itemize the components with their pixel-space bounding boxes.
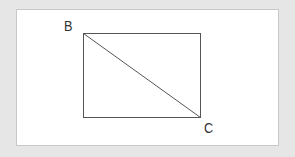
rectangle-diagram: [0, 0, 295, 157]
vertex-label-b: B: [64, 17, 73, 34]
diagonal-line-bc: [84, 34, 201, 118]
vertex-label-c: C: [204, 119, 213, 136]
